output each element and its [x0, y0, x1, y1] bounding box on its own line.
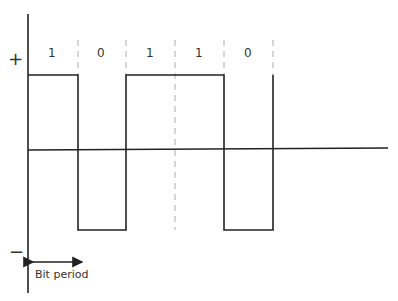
bit-label-4: 1	[195, 46, 203, 60]
bit-label-3: 1	[146, 46, 154, 60]
signal-waveform	[28, 75, 273, 230]
positive-level-label: +	[8, 48, 23, 69]
bit-label-2: 0	[97, 46, 105, 60]
bit-label-1: 1	[48, 46, 56, 60]
negative-level-label: −	[9, 241, 24, 262]
x-axis	[28, 148, 388, 150]
signal-diagram: 1 0 1 1 0 + − Bit period	[0, 0, 398, 301]
bit-period-label: Bit period	[35, 268, 88, 281]
bit-boundaries	[78, 40, 273, 230]
bit-label-5: 0	[244, 46, 252, 60]
